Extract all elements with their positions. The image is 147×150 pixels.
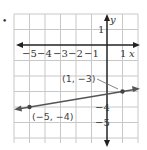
svg-text:1: 1 (98, 24, 104, 35)
svg-text:−5: −5 (95, 117, 110, 128)
svg-text:−4: −4 (95, 102, 110, 113)
coordinate-graph: • −5 −4 −3 −2 −1 1 x 1 y (0, 0, 147, 150)
point-neg5-neg4 (27, 105, 31, 109)
x-axis-label: x (129, 48, 135, 59)
svg-text:−4: −4 (37, 48, 52, 59)
svg-text:−2: −2 (68, 48, 83, 59)
svg-text:−1: −1 (84, 48, 99, 59)
point-label-2: (−5, −4) (32, 111, 73, 122)
x-tick-labels: −5 −4 −3 −2 −1 1 x (22, 48, 135, 59)
y-tick-labels: 1 y −4 −5 (95, 14, 116, 128)
svg-text:−5: −5 (22, 48, 37, 59)
bullet: • (2, 16, 7, 26)
svg-text:1: 1 (120, 48, 126, 59)
point-1-neg3 (120, 89, 124, 93)
point-label-1: (1, −3) (62, 73, 96, 84)
y-axis-label: y (109, 14, 116, 25)
svg-text:−3: −3 (53, 48, 68, 59)
